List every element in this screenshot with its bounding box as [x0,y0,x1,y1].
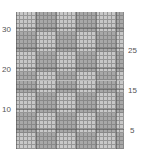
row-label-15: 15 [128,87,137,95]
row-label-25: 25 [128,47,137,55]
grid-major-line [16,129,124,130]
grid-major-line [16,109,124,110]
row-label-10: 10 [2,106,11,114]
grid-major-line [16,28,124,29]
grid-major-line [16,68,124,69]
row-label-30: 30 [2,26,11,34]
grid-major-line [16,89,124,90]
chart-grid [16,12,124,149]
row-label-20: 20 [2,66,11,74]
grid-major-line [16,48,124,49]
row-label-5: 5 [130,127,134,135]
